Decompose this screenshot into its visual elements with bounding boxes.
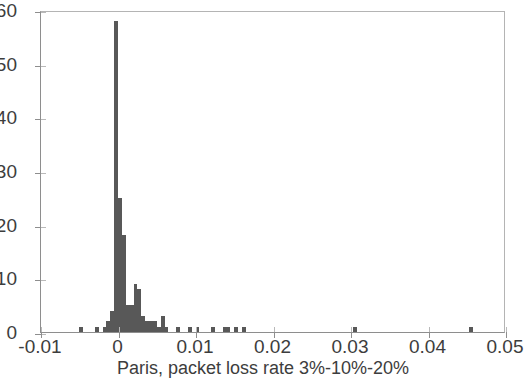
plot-area xyxy=(40,11,505,333)
x-tick-inner xyxy=(196,327,197,332)
y-tick-label: 40 xyxy=(0,108,17,127)
x-tick-label: 0.02 xyxy=(233,336,313,358)
y-tick-label: 30 xyxy=(0,162,17,181)
x-tick-inner xyxy=(274,327,275,332)
y-tick-inner xyxy=(41,119,46,120)
y-tick-inner xyxy=(41,280,46,281)
histogram-bar xyxy=(165,327,169,332)
y-tick-inner xyxy=(41,12,46,13)
x-tick-label: 0.05 xyxy=(465,336,526,358)
y-tick-inner xyxy=(41,66,46,67)
y-tick-inner xyxy=(41,173,46,174)
histogram-bar xyxy=(188,327,192,332)
x-tick-label: -0.01 xyxy=(0,336,80,358)
histogram-bar xyxy=(211,327,215,332)
x-axis-title: Paris, packet loss rate 3%-10%-20% xyxy=(0,358,526,379)
x-tick-label: 0.03 xyxy=(310,336,390,358)
y-tick-label: 50 xyxy=(0,55,17,74)
histogram-bar xyxy=(176,327,180,332)
histogram-bar xyxy=(353,327,357,332)
histogram-bar xyxy=(227,327,231,332)
x-tick-inner xyxy=(41,327,42,332)
histogram-bar xyxy=(234,327,238,332)
histogram-figure: 0102030405060 -0.0100.010.020.030.040.05… xyxy=(0,0,526,383)
histogram-bar xyxy=(95,327,99,332)
x-tick-label: 0.04 xyxy=(388,336,468,358)
x-tick-inner xyxy=(506,327,507,332)
x-tick-inner xyxy=(119,327,120,332)
y-tick-label: 20 xyxy=(0,216,17,235)
y-tick-inner xyxy=(41,227,46,228)
y-tick-label: 10 xyxy=(0,269,17,288)
x-tick-label: 0 xyxy=(78,336,158,358)
histogram-bar xyxy=(469,327,473,332)
histogram-bar xyxy=(79,327,83,332)
x-tick-inner xyxy=(351,327,352,332)
bar-series xyxy=(41,12,504,332)
x-tick-label: 0.01 xyxy=(155,336,235,358)
x-tick-inner xyxy=(429,327,430,332)
histogram-bar xyxy=(242,327,246,332)
y-tick-label: 60 xyxy=(0,1,17,20)
